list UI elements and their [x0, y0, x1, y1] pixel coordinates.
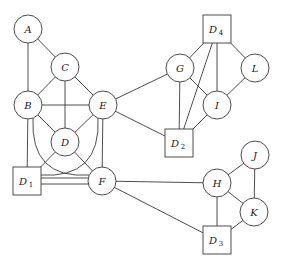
node-label: D [208, 235, 217, 246]
node-label: G [176, 63, 184, 74]
node-c: C [51, 53, 79, 81]
node-d3: D3 [203, 226, 231, 254]
node-subscript: 3 [219, 240, 223, 248]
node-subscript: 1 [29, 181, 33, 189]
node-e: E [89, 91, 117, 119]
node-k: K [240, 198, 268, 226]
node-d1: D1 [13, 167, 41, 195]
node-f: F [88, 167, 116, 195]
node-label: J [251, 150, 258, 161]
node-d2: D2 [165, 129, 193, 157]
node-label: H [212, 178, 222, 189]
edge-f-h [102, 181, 217, 183]
node-label: D [170, 138, 179, 149]
node-b: B [14, 91, 42, 119]
node-label: A [23, 24, 31, 35]
node-j: J [241, 141, 269, 169]
graph-diagram: ACBEDD1FD4GLID2JHKD3 [0, 0, 283, 267]
node-i: I [203, 91, 231, 119]
node-label: E [98, 100, 107, 111]
node-label: C [61, 62, 69, 73]
node-label: F [98, 176, 107, 187]
node-label: L [251, 63, 259, 74]
node-g: G [166, 54, 194, 82]
node-label: D [18, 176, 27, 187]
nodes-layer: ACBEDD1FD4GLID2JHKD3 [13, 15, 269, 254]
edge-f-d3 [102, 181, 217, 240]
node-label: K [249, 207, 258, 218]
node-label: D [208, 24, 217, 35]
node-d: D [51, 128, 79, 156]
node-subscript: 2 [181, 143, 185, 151]
node-label: B [23, 100, 31, 111]
node-subscript: 4 [219, 29, 224, 37]
node-l: L [241, 54, 269, 82]
node-h: H [203, 169, 231, 197]
node-label: D [60, 137, 69, 148]
node-a: A [14, 15, 42, 43]
node-d4: D4 [203, 15, 231, 43]
